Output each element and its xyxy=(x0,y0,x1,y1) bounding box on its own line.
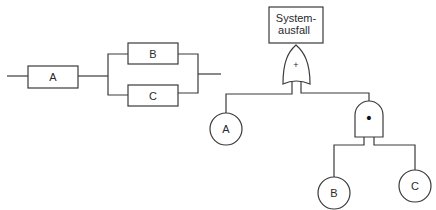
top-event-line2: ausfall xyxy=(278,24,310,36)
basic-event-b-label: B xyxy=(330,187,337,199)
or-to-a-line xyxy=(226,82,292,113)
basic-event-c-label: C xyxy=(411,180,419,192)
block-c-label: C xyxy=(149,90,157,102)
or-gate-symbol: + xyxy=(293,60,298,70)
and-to-b-line xyxy=(334,137,364,177)
basic-event-b: B xyxy=(318,177,350,209)
and-gate-icon: • xyxy=(355,101,383,137)
top-event-line1: System- xyxy=(276,12,317,24)
fault-tree: System- ausfall + A • B C xyxy=(210,7,431,209)
basic-event-a-label: A xyxy=(222,123,230,135)
block-c: C xyxy=(128,85,178,106)
block-a-label: A xyxy=(49,71,57,83)
top-event-box: System- ausfall xyxy=(269,7,323,43)
block-b: B xyxy=(128,43,178,64)
and-gate-symbol: • xyxy=(365,110,373,126)
or-to-and-line xyxy=(301,82,369,101)
reliability-block-diagram: A B C xyxy=(7,43,221,106)
basic-event-a: A xyxy=(210,113,242,145)
block-b-label: B xyxy=(149,48,156,60)
parallel-join-line xyxy=(178,54,198,93)
parallel-split-line xyxy=(108,54,128,95)
diagram-canvas: A B C System- ausfall + A xyxy=(0,0,436,210)
block-a: A xyxy=(28,66,78,88)
or-gate-icon: + xyxy=(283,45,310,84)
and-to-c-line xyxy=(374,137,415,170)
basic-event-c: C xyxy=(399,170,431,202)
